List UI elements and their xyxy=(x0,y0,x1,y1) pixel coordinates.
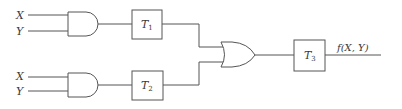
input-label-x-lower: X xyxy=(15,70,25,83)
lower-inputs: X Y xyxy=(15,70,68,98)
block-t1: T1 xyxy=(132,10,162,39)
upper-inputs: X Y xyxy=(15,9,68,38)
wire-t1-to-or xyxy=(162,24,224,47)
logic-circuit-diagram: X Y T1 X Y T2 T3 f(X, Y) xyxy=(0,0,402,109)
output-label: f(X, Y) xyxy=(336,42,369,53)
input-label-y-upper: Y xyxy=(16,25,25,38)
and-gate-upper xyxy=(68,12,98,36)
input-label-y-lower: Y xyxy=(16,85,25,98)
and-gate-lower xyxy=(68,73,98,97)
block-t3: T3 xyxy=(294,40,325,71)
input-label-x-upper: X xyxy=(15,9,25,22)
wire-t2-to-or xyxy=(163,62,224,85)
or-gate xyxy=(221,42,255,67)
block-t2: T2 xyxy=(132,71,163,100)
